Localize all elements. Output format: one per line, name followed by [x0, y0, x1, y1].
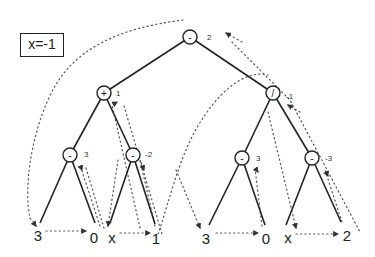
traversal-rr-up: [325, 170, 342, 222]
node-right-right-op: -: [310, 153, 313, 164]
node-left-left-value: 3: [84, 150, 89, 159]
node-right-left-op: -: [240, 153, 243, 164]
leaf-7: x: [284, 229, 292, 246]
leaf-4: 1: [152, 230, 160, 247]
leaf-2: 0: [90, 229, 98, 246]
traversal-plus-down: [124, 106, 162, 234]
node-left-right: - -2: [126, 148, 153, 162]
node-right-right-value: -3: [325, 154, 333, 163]
traversal-mid: [158, 74, 268, 234]
tree-edges: [40, 37, 341, 225]
traversal-paths: [28, 20, 360, 234]
node-right-op: /: [272, 88, 275, 99]
node-left-op: +: [101, 88, 107, 99]
node-right: / -1: [266, 86, 294, 101]
leaf-8: 2: [343, 227, 351, 244]
expression-tree-diagram: - 2 + 1 / -1 - 3 - -2 - 3 - -3 3 0 x 1 3…: [0, 0, 375, 257]
node-left-left-op: -: [68, 150, 71, 161]
leaf-1: 3: [34, 227, 42, 244]
traversal-div-up: [288, 105, 300, 112]
traversal-mid-down: [176, 170, 200, 228]
traversal-root-down: [226, 33, 242, 42]
node-right-value: -1: [286, 92, 294, 101]
traversal-outer-left: [28, 20, 183, 226]
traversal-ll-up: [80, 165, 100, 226]
node-left: + 1: [97, 86, 121, 100]
leaf-6: 0: [262, 230, 270, 247]
leaf-nodes: 3 0 x 1 3 0 x 2: [34, 227, 351, 247]
node-left-value: 1: [116, 89, 121, 98]
node-right-left-value: 3: [256, 154, 261, 163]
node-right-left: - 3: [235, 151, 261, 165]
node-root-op: -: [188, 32, 191, 43]
node-left-right-value: -2: [145, 150, 153, 159]
traversal-ll-down: [86, 168, 104, 228]
node-left-left: - 3: [63, 148, 89, 162]
leaf-5: 3: [202, 230, 210, 247]
node-root-value: 2: [207, 33, 212, 42]
node-left-right-op: -: [131, 150, 134, 161]
node-right-right: - -3: [305, 151, 333, 165]
leaf-3: x: [108, 229, 116, 246]
